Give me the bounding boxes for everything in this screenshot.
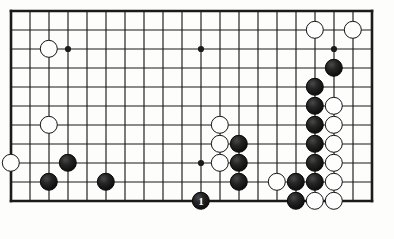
go-stone-black-move-1[interactable]: 1 xyxy=(192,192,210,210)
star-point-icon xyxy=(65,46,71,52)
star-point-icon xyxy=(198,46,204,52)
star-point-icon xyxy=(331,46,337,52)
stone-move-number: 1 xyxy=(193,193,209,209)
star-point-icon xyxy=(198,160,204,166)
go-board-diagram: 1 Go board position diagram xyxy=(0,0,394,239)
